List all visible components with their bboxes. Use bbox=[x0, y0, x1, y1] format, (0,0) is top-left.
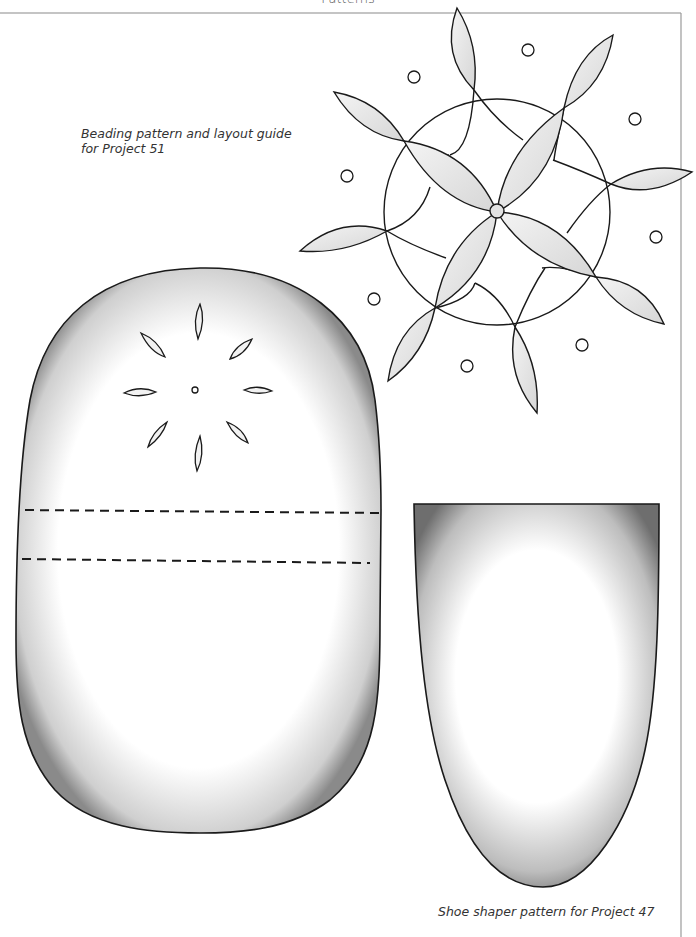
beading-caption: Beading pattern and layout guide for Pro… bbox=[81, 126, 301, 156]
shoe-shaper-caption: Shoe shaper pattern for Project 47 bbox=[438, 904, 678, 919]
beading-layout-oval bbox=[16, 268, 381, 833]
shoe-shaper bbox=[414, 504, 659, 887]
